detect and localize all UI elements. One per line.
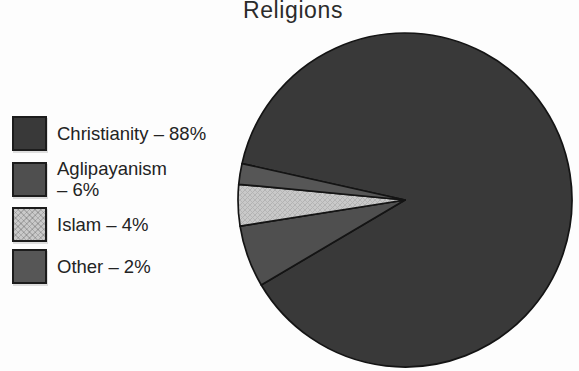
legend-label-line: Christianity – 88%	[57, 123, 206, 144]
legend-label-line: – 6%	[57, 179, 167, 200]
legend-label-line: Other – 2%	[57, 256, 151, 277]
legend-item: Islam – 4%	[12, 207, 227, 242]
legend-item-label: Other – 2%	[57, 256, 151, 277]
chart-legend: Christianity – 88% Aglipayanism– 6% Isla…	[12, 116, 227, 291]
legend-swatch-islam	[12, 207, 47, 242]
legend-item: Christianity – 88%	[12, 116, 227, 151]
legend-item: Other – 2%	[12, 249, 227, 284]
legend-item-label: Islam – 4%	[57, 214, 149, 235]
pie-chart-figure: Religions Christianity – 88% Aglipayanis…	[0, 0, 579, 371]
legend-label-line: Aglipayanism	[57, 158, 167, 179]
legend-item: Aglipayanism– 6%	[12, 158, 227, 200]
legend-label-line: Islam – 4%	[57, 214, 149, 235]
legend-swatch-christianity	[12, 116, 47, 151]
legend-item-label: Christianity – 88%	[57, 123, 206, 144]
legend-item-label: Aglipayanism– 6%	[57, 158, 167, 200]
legend-swatch-other	[12, 249, 47, 284]
legend-swatch-aglipayanism	[12, 162, 47, 197]
